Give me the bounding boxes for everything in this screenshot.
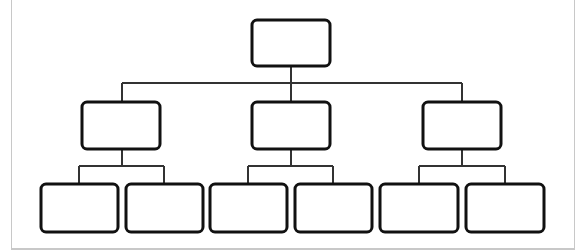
node-level2-2-label: [252, 102, 330, 149]
node-level2-3-label: [423, 102, 501, 149]
node-root-label: [252, 20, 330, 66]
node-leaf-4-label: [295, 184, 372, 232]
node-leaf-3-label: [210, 184, 287, 232]
node-leaf-2-label: [126, 184, 203, 232]
node-leaf-1-label: [41, 184, 118, 232]
node-leaf-6-label: [466, 184, 544, 232]
node-level2-1-label: [82, 102, 160, 149]
node-leaf-5-label: [380, 184, 458, 232]
